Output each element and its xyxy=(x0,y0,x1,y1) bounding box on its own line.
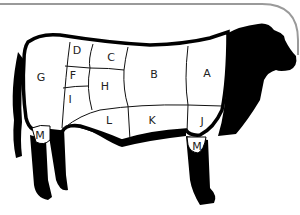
label-f: F xyxy=(70,69,76,82)
body-outline xyxy=(23,32,228,141)
label-c: C xyxy=(107,51,115,64)
label-h: H xyxy=(101,80,109,93)
hind-leg-back xyxy=(30,135,52,200)
label-m-fore: M xyxy=(192,140,202,153)
label-k: K xyxy=(148,114,156,127)
head-neck xyxy=(218,24,296,136)
label-j: J xyxy=(199,115,203,128)
label-g: G xyxy=(37,71,46,84)
label-d: D xyxy=(73,44,81,57)
label-l: L xyxy=(106,114,113,127)
label-a: A xyxy=(203,67,211,80)
beef-cuts-diagram: A B C D F G H I J K L M M xyxy=(0,0,300,215)
label-i: I xyxy=(68,93,71,106)
hind-leg-front xyxy=(48,128,68,190)
label-b: B xyxy=(150,68,158,81)
label-m-hind: M xyxy=(35,129,45,142)
